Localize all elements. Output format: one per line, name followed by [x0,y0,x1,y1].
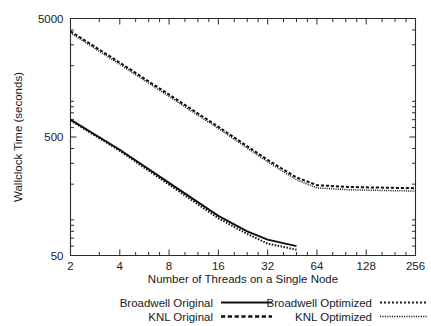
y-tick-label: 500 [44,131,63,143]
x-tick-label: 128 [357,260,376,272]
data-series-group [71,31,416,249]
y-tick-label: 50 [51,250,64,262]
legend-label: Broadwell Optimized [267,297,372,309]
x-tick-label: 8 [166,260,172,272]
axes-frame [71,19,416,256]
series-line [71,31,416,188]
y-tick-label: 5000 [38,13,64,25]
legend-label: KNL Original [148,311,213,323]
y-axis-ticks [71,19,416,256]
y-axis-tick-labels: 505005000 [38,13,64,262]
x-axis-tick-labels: 248163264128256 [67,260,425,272]
chart-legend: Broadwell OriginalKNL OriginalBroadwell … [120,297,427,323]
series-line [71,33,416,191]
x-axis-ticks [71,19,416,256]
x-tick-label: 16 [212,260,225,272]
y-axis-title: Wallclock Time (seconds) [12,72,24,202]
legend-label: KNL Optimized [295,311,372,323]
chart-plot-area: 505005000 248163264128256 Number of Thre… [0,0,431,326]
x-tick-label: 32 [261,260,274,272]
legend-label: Broadwell Original [120,297,213,309]
x-tick-label: 2 [67,260,73,272]
chart-figure: 505005000 248163264128256 Number of Thre… [0,0,431,326]
series-line [71,120,297,246]
x-tick-label: 4 [117,260,124,272]
x-tick-label: 256 [406,260,425,272]
x-tick-label: 64 [311,260,324,272]
x-axis-title: Number of Threads on a Single Node [148,273,338,285]
